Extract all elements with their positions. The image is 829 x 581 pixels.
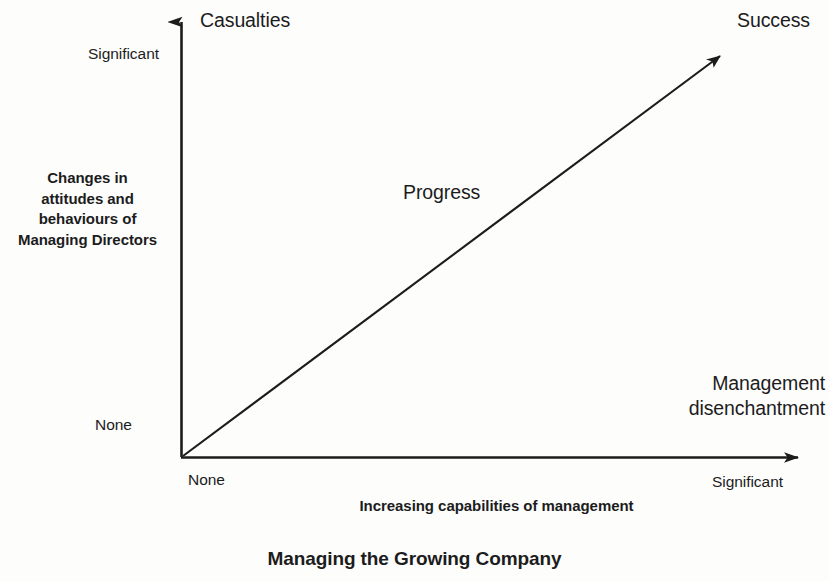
y-axis-title: Changes in attitudes and behaviours of M… xyxy=(0,168,175,250)
annotation-disenchantment-line-2: disenchantment xyxy=(689,396,825,421)
annotation-disenchantment-line-1: Management xyxy=(689,371,825,396)
x-axis-tick-significant: Significant xyxy=(712,473,783,491)
y-axis-title-line-2: attitudes and xyxy=(0,189,175,210)
annotation-management-disenchantment: Management disenchantment xyxy=(689,371,825,421)
figure-canvas: Casualties Success Progress Management d… xyxy=(0,0,829,581)
diagram-drawing-layer xyxy=(0,0,829,581)
y-axis-tick-none: None xyxy=(95,416,132,434)
annotation-casualties: Casualties xyxy=(200,9,290,32)
y-axis-title-line-1: Changes in xyxy=(0,168,175,189)
progress-arrow xyxy=(183,56,720,456)
y-axis-title-line-4: Managing Directors xyxy=(0,230,175,251)
x-axis-tick-none: None xyxy=(188,471,225,489)
annotation-progress: Progress xyxy=(403,181,480,204)
figure-caption: Managing the Growing Company xyxy=(0,548,829,570)
y-axis-title-line-3: behaviours of xyxy=(0,209,175,230)
y-axis-tick-significant: Significant xyxy=(88,45,159,63)
annotation-success: Success xyxy=(737,9,810,32)
x-axis-title: Increasing capabilities of management xyxy=(182,497,811,515)
